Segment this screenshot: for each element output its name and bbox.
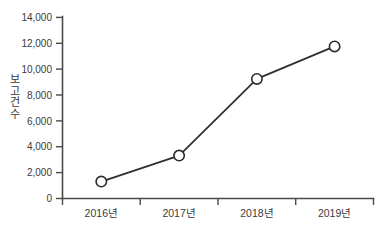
chart-background <box>0 0 384 230</box>
y-axis-title: 보 고 건 수 <box>7 74 22 121</box>
y-tick-label-12000: 12,000 <box>21 38 52 49</box>
y-tick-label-14000: 14,000 <box>21 12 52 23</box>
x-tick-label-2016: 2016년 <box>85 207 118 219</box>
y-tick-label-4000: 4,000 <box>27 141 52 152</box>
data-point-2018 <box>252 74 262 84</box>
x-tick-label-2017: 2017년 <box>162 207 195 219</box>
x-tick-label-2018: 2018년 <box>240 207 273 219</box>
y-axis-title-char-1: 보 <box>10 74 20 86</box>
y-tick-label-2000: 2,000 <box>27 167 52 178</box>
y-tick-label-0: 0 <box>46 193 52 204</box>
chart-canvas: 14,000 12,000 10,000 8,000 6,000 4,000 2… <box>0 0 384 230</box>
y-tick-label-6000: 6,000 <box>27 116 52 127</box>
data-point-2019 <box>329 41 339 51</box>
y-tick-label-10000: 10,000 <box>21 64 52 75</box>
y-axis-title-char-4: 수 <box>10 109 20 121</box>
data-point-2016 <box>96 176 106 186</box>
y-tick-label-8000: 8,000 <box>27 90 52 101</box>
data-point-2017 <box>174 150 184 160</box>
line-chart: 14,000 12,000 10,000 8,000 6,000 4,000 2… <box>0 0 384 230</box>
x-tick-label-2019: 2019년 <box>318 207 351 219</box>
